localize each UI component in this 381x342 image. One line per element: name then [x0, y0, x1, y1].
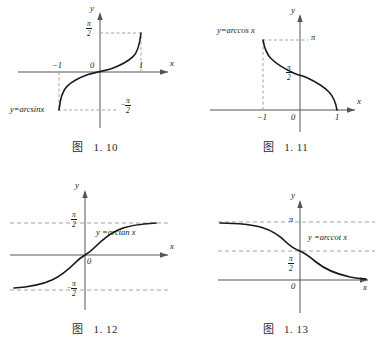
x-axis-label: x — [170, 58, 174, 68]
figure-caption-1-11: 图1. 11 — [190, 138, 381, 154]
caption-number: 1. 13 — [284, 323, 309, 335]
figure-arcsin: −1 1 0 x y π2 −π2 y=arcsinx 图1. 10 — [0, 0, 190, 165]
arccot-plot — [190, 170, 381, 320]
caption-number: 1. 12 — [94, 323, 119, 335]
y-axis-arrow — [297, 14, 302, 22]
arccos-curve-label: y=arccos x — [217, 25, 255, 35]
figure-caption-1-10: 图1. 10 — [0, 138, 190, 154]
x-tick-one: 1 — [139, 60, 143, 70]
caption-number: 1. 10 — [94, 141, 119, 153]
arccot-curve-label: y =arccot x — [308, 232, 347, 242]
arcsin-curve-label: y=arcsinx — [10, 104, 44, 114]
y-axis-label: y — [291, 5, 295, 15]
figure-arccos: −1 1 0 x y π π2 y=arccos x 图1. 11 — [190, 0, 381, 165]
x-axis-label: x — [357, 96, 361, 106]
y-tick-pi: π — [311, 32, 315, 42]
y-tick-pi-over-two: π2 — [86, 20, 92, 37]
y-tick-pi-over-two: π2 — [71, 211, 77, 228]
x-axis-label: x — [363, 282, 367, 292]
caption-word: 图 — [263, 323, 275, 335]
caption-word: 图 — [72, 141, 84, 153]
arctan-plot — [0, 170, 190, 320]
y-axis-arrow — [82, 190, 87, 198]
caption-number: 1. 11 — [284, 141, 308, 153]
arcsin-plot — [0, 0, 190, 140]
x-axis-arrow — [347, 107, 355, 113]
figure-arccot: 0 x y π π2 y =arccot x 图1. 13 — [190, 170, 381, 342]
y-tick-minus-pi-over-two: −π2 — [125, 97, 131, 114]
y-axis-label: y — [90, 3, 94, 13]
caption-word: 图 — [263, 141, 275, 153]
y-tick-pi: π — [289, 214, 293, 224]
x-axis-label: x — [170, 241, 174, 251]
origin-label: 0 — [291, 281, 295, 291]
x-axis-arrow — [160, 69, 168, 75]
x-tick-minus-one: −1 — [52, 60, 62, 70]
x-axis-arrow — [160, 252, 168, 258]
arctan-curve-label: y =arctan x — [96, 227, 135, 237]
figure-arctan: 0 x y π2 −π2 y =arctan x 图1. 12 — [0, 170, 190, 342]
y-tick-pi-over-two: π2 — [286, 64, 292, 81]
figure-caption-1-13: 图1. 13 — [190, 320, 381, 336]
caption-word: 图 — [72, 323, 84, 335]
y-axis-arrow — [97, 12, 102, 20]
y-tick-pi-over-two: π2 — [288, 255, 294, 272]
y-axis-arrow — [297, 200, 302, 208]
y-tick-minus-pi-over-two: −π2 — [71, 280, 77, 297]
origin-label: 0 — [90, 60, 94, 70]
origin-label: 0 — [291, 112, 295, 122]
origin-label: 0 — [87, 256, 91, 266]
y-axis-label: y — [75, 180, 79, 190]
x-tick-one: 1 — [335, 112, 339, 122]
x-tick-minus-one: −1 — [257, 112, 267, 122]
figure-caption-1-12: 图1. 12 — [0, 320, 190, 336]
y-axis-label: y — [291, 190, 295, 200]
